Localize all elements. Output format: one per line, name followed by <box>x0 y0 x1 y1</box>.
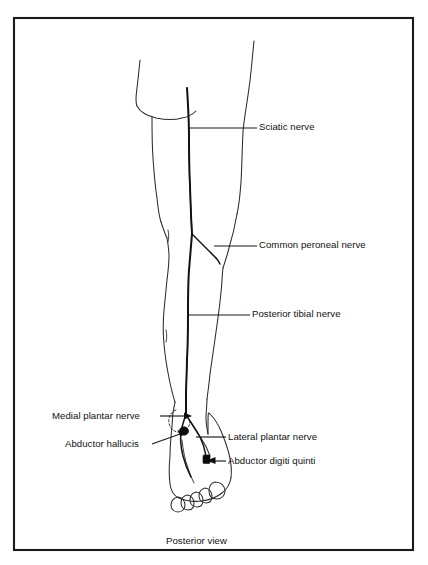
label-abductor-hallucis: Abductor hallucis <box>65 439 139 449</box>
toe-3 <box>190 492 203 507</box>
figure-caption: Posterior view <box>166 536 227 546</box>
common-peroneal-nerve-tail <box>216 258 220 264</box>
abductor-digiti-quinti-marker <box>203 455 210 464</box>
anatomical-figure: Sciatic nerve Common peroneal nerve Post… <box>0 0 428 565</box>
label-medial-plantar-nerve: Medial plantar nerve <box>52 411 140 421</box>
foot-lateral-border <box>208 413 231 478</box>
figure-border <box>14 18 413 550</box>
toe-5 <box>171 497 185 512</box>
sciatic-nerve-path <box>187 88 192 234</box>
left-calf-outline <box>163 238 175 402</box>
left-knee-outline <box>161 222 167 238</box>
left-hip-outline <box>136 60 140 106</box>
common-peroneal-nerve-path <box>192 234 216 258</box>
figure-drawing <box>0 0 428 565</box>
right-calf-outline <box>207 268 223 399</box>
label-abductor-digiti-quinti: Abductor digiti quinti <box>228 456 316 466</box>
posterior-tibial-nerve-path <box>186 234 192 414</box>
foot-sole-border <box>179 478 231 501</box>
left-calf-notch <box>166 330 167 342</box>
label-common-peroneal-nerve: Common peroneal nerve <box>259 240 366 250</box>
leader-abductor-hallucis <box>152 434 180 444</box>
label-posterior-tibial-nerve: Posterior tibial nerve <box>252 309 341 319</box>
right-knee-outline <box>223 214 237 268</box>
left-thigh-outline <box>152 117 161 222</box>
label-lateral-plantar-nerve: Lateral plantar nerve <box>228 432 317 442</box>
toe-4 <box>181 495 194 510</box>
left-knee-notch <box>168 230 169 242</box>
label-sciatic-nerve: Sciatic nerve <box>259 122 315 132</box>
